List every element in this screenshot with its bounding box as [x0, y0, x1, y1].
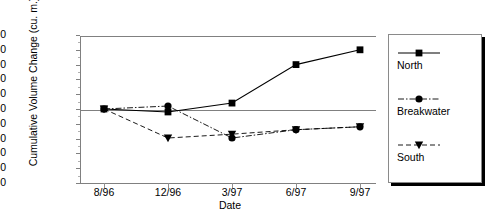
series-north — [101, 46, 364, 115]
legend-item-south[interactable]: South — [389, 139, 483, 164]
legend-item-north[interactable]: North — [389, 47, 483, 72]
plot-area — [80, 36, 376, 184]
series-layer — [80, 36, 376, 184]
y-tick-label: -20000 — [0, 162, 6, 172]
y-tick-label: 10000 — [0, 73, 6, 83]
legend-label: South — [389, 151, 483, 164]
legend-label: Breakwater — [389, 105, 483, 118]
y-tick-label: -25000 — [0, 177, 6, 187]
legend-label: North — [389, 59, 483, 72]
y-tick-label: 0 — [0, 103, 6, 113]
y-tick-label: -10000 — [0, 133, 6, 143]
y-tick-label: -15000 — [0, 147, 6, 157]
data-point — [229, 100, 236, 107]
y-tick-label: -5000 — [0, 118, 6, 128]
data-point — [164, 135, 172, 143]
chart-figure: Cumulative Volume Change (cu. m.) Date 2… — [0, 0, 489, 216]
y-tick-label: 15000 — [0, 59, 6, 69]
data-point — [293, 61, 300, 68]
chart-legend: NorthBreakwaterSouth — [388, 34, 482, 183]
data-point — [357, 46, 364, 53]
data-point — [164, 102, 171, 109]
legend-marker-square-icon — [389, 47, 483, 59]
legend-item-breakwater[interactable]: Breakwater — [389, 93, 483, 118]
y-tick-label: 20000 — [0, 44, 6, 54]
x-axis-title: Date — [80, 199, 380, 211]
y-tick-label: 25000 — [0, 29, 6, 39]
legend-marker-triangle-down-icon — [389, 139, 483, 151]
legend-marker-circle-icon — [389, 93, 483, 105]
y-axis-title: Cumulative Volume Change (cu. m.) — [27, 0, 39, 177]
y-tick-label: 5000 — [0, 88, 6, 98]
